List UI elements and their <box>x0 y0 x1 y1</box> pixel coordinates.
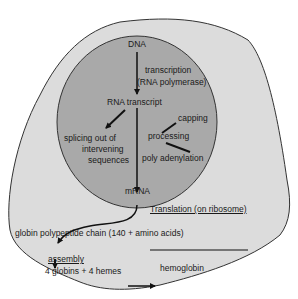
label-transcription: transcription <box>145 66 191 75</box>
label-splicing-3: sequences <box>88 156 129 165</box>
label-splicing-2: intervening <box>82 145 124 154</box>
label-rna-transcript: RNA transcript <box>107 98 162 107</box>
label-splicing-1: splicing out of <box>64 134 116 143</box>
label-mrna: mRNA <box>125 187 150 196</box>
label-poly-adenylation: poly adenylation <box>142 154 203 163</box>
label-translation: Translation (on ribosome) <box>150 205 247 214</box>
label-hemoglobin: hemoglobin <box>160 264 204 273</box>
label-globin-chain: globin polypeptide chain (140 + amino ac… <box>15 229 183 238</box>
label-globins-hemes: 4 globins + 4 hemes <box>45 267 121 276</box>
label-processing: processing <box>148 132 189 141</box>
label-rna-polymerase: (RNA polymerase) <box>137 78 206 87</box>
label-dna: DNA <box>128 40 146 49</box>
label-assembly: assembly <box>48 255 84 264</box>
diagram-canvas <box>0 0 298 299</box>
label-capping: capping <box>178 114 208 123</box>
